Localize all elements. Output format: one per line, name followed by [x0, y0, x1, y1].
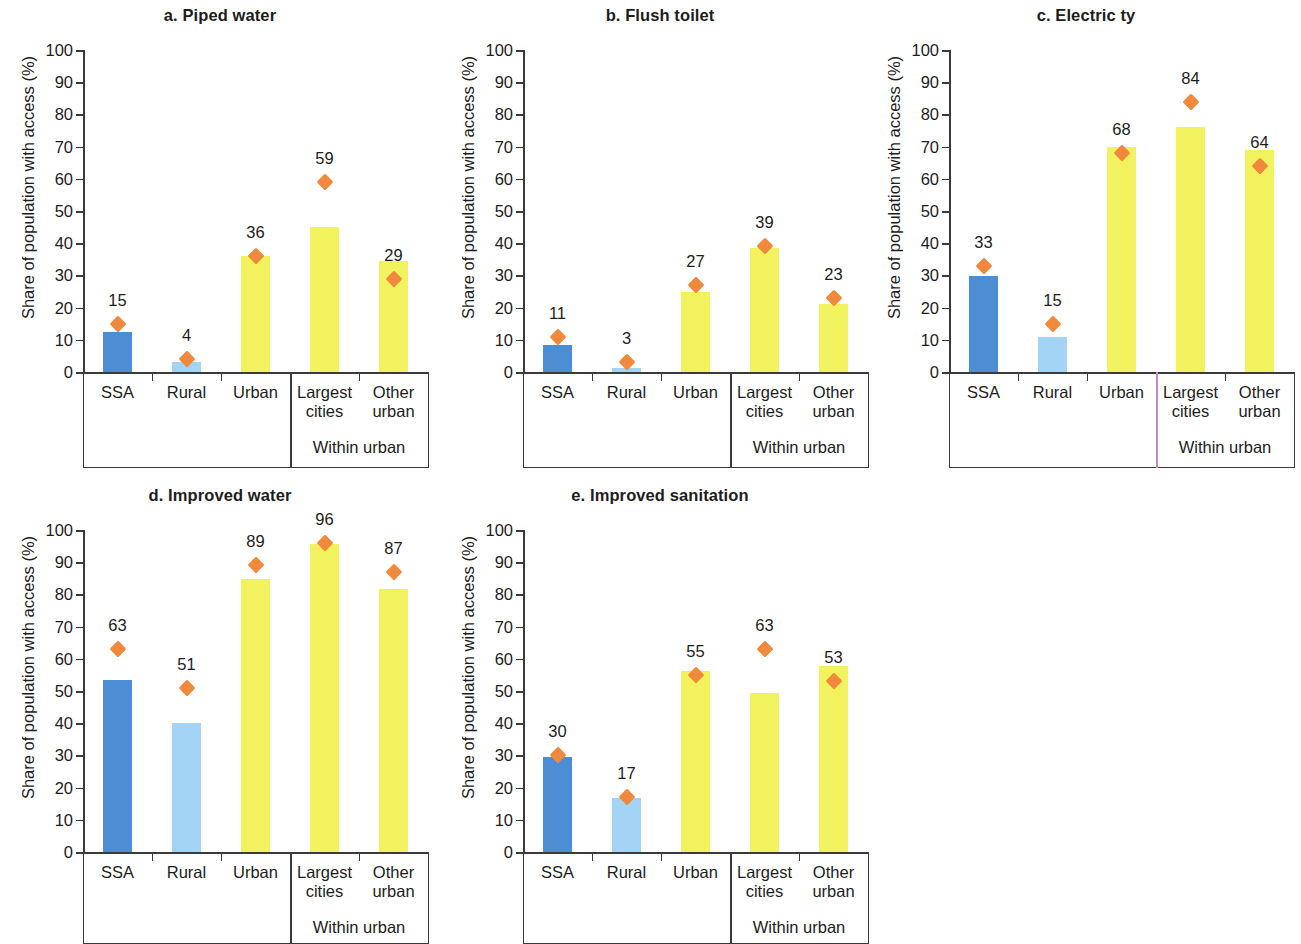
category-divider-tick	[359, 372, 360, 381]
y-tick-label: 90	[17, 554, 73, 571]
bar-c-0	[969, 276, 998, 372]
y-tick-mark	[76, 114, 83, 116]
within-urban-label: Within urban	[1156, 438, 1294, 457]
within-urban-label: Within urban	[730, 918, 868, 937]
y-tick-label: 40	[457, 715, 513, 732]
panel-title-c: c. Electric ty	[866, 6, 1301, 25]
y-tick-label: 0	[883, 364, 939, 381]
bar-e-0	[543, 757, 572, 852]
category-label-line: Other	[799, 863, 868, 882]
y-tick-label: 10	[17, 332, 73, 349]
y-tick-mark	[942, 275, 949, 277]
y-tick-label: 90	[457, 554, 513, 571]
y-tick-label: 10	[17, 812, 73, 829]
category-label-line: urban	[359, 882, 428, 901]
category-label-line: cities	[730, 882, 799, 901]
y-tick-mark	[516, 308, 523, 310]
data-label-b-4: 23	[804, 266, 864, 283]
y-tick-mark	[76, 50, 83, 52]
category-divider-tick	[1087, 372, 1088, 381]
marker-diamond-d-1	[178, 679, 195, 696]
bar-d-1	[172, 723, 201, 852]
y-tick-label: 20	[17, 780, 73, 797]
category-label-4: Otherurban	[799, 383, 868, 421]
category-label-0: SSA	[523, 383, 592, 402]
marker-diamond-a-3	[316, 174, 333, 191]
y-tick-mark	[76, 308, 83, 310]
category-divider-tick	[661, 852, 662, 861]
y-tick-label: 40	[17, 235, 73, 252]
y-tick-mark	[76, 755, 83, 757]
bar-c-3	[1176, 127, 1205, 372]
y-tick-mark	[516, 340, 523, 342]
y-tick-mark	[76, 788, 83, 790]
category-label-3: Largestcities	[290, 863, 359, 901]
y-tick-mark	[76, 147, 83, 149]
y-tick-label: 30	[17, 267, 73, 284]
y-axis-line	[949, 50, 951, 373]
y-tick-label: 100	[17, 42, 73, 59]
category-label-line: Urban	[1087, 383, 1156, 402]
data-label-e-4: 53	[804, 649, 864, 666]
marker-diamond-c-3	[1182, 93, 1199, 110]
y-tick-mark	[76, 275, 83, 277]
y-tick-label: 60	[457, 171, 513, 188]
category-label-3: Largestcities	[730, 863, 799, 901]
y-tick-label: 0	[17, 844, 73, 861]
category-label-line: Largest	[730, 863, 799, 882]
category-label-1: Rural	[592, 383, 661, 402]
y-tick-label: 70	[17, 139, 73, 156]
y-tick-mark	[516, 820, 523, 822]
bar-e-4	[819, 666, 848, 852]
category-divider-tick	[799, 852, 800, 861]
data-label-d-0: 63	[88, 617, 148, 634]
category-label-4: Otherurban	[359, 863, 428, 901]
category-label-1: Rural	[152, 383, 221, 402]
data-label-c-2: 68	[1092, 121, 1152, 138]
panel-title-b: b. Flush toilet	[440, 6, 880, 25]
category-label-4: Otherurban	[1225, 383, 1294, 421]
category-label-line: Other	[359, 383, 428, 402]
y-tick-mark	[76, 852, 83, 854]
chart-panel-a: a. Piped waterShare of population with a…	[0, 0, 440, 470]
bar-a-2	[241, 256, 270, 372]
marker-diamond-b-0	[549, 328, 566, 345]
y-tick-mark	[76, 562, 83, 564]
y-tick-mark	[942, 50, 949, 52]
panel-title-e: e. Improved sanitation	[440, 486, 880, 505]
y-tick-mark	[942, 147, 949, 149]
data-label-d-3: 96	[295, 511, 355, 528]
category-label-2: Urban	[221, 863, 290, 882]
y-tick-label: 90	[883, 74, 939, 91]
y-tick-label: 90	[17, 74, 73, 91]
category-label-4: Otherurban	[799, 863, 868, 901]
y-tick-mark	[76, 820, 83, 822]
chart-panel-b: b. Flush toiletShare of population with …	[440, 0, 880, 470]
data-label-e-2: 55	[666, 643, 726, 660]
y-tick-mark	[942, 211, 949, 213]
data-label-b-1: 3	[597, 330, 657, 347]
data-label-a-0: 15	[88, 292, 148, 309]
category-divider-tick	[799, 372, 800, 381]
y-tick-label: 60	[17, 651, 73, 668]
bar-e-1	[612, 798, 641, 852]
data-label-b-3: 39	[735, 214, 795, 231]
y-tick-label: 0	[17, 364, 73, 381]
y-tick-label: 40	[457, 235, 513, 252]
data-label-e-1: 17	[597, 765, 657, 782]
category-label-3: Largestcities	[730, 383, 799, 421]
bar-a-3	[310, 227, 339, 372]
y-tick-mark	[76, 179, 83, 181]
y-tick-label: 100	[883, 42, 939, 59]
category-label-line: Largest	[1156, 383, 1225, 402]
marker-diamond-d-0	[109, 641, 126, 658]
category-label-line: Other	[799, 383, 868, 402]
y-tick-mark	[516, 243, 523, 245]
y-tick-label: 80	[883, 106, 939, 123]
category-label-1: Rural	[152, 863, 221, 882]
category-divider-tick	[152, 372, 153, 381]
category-label-line: Urban	[661, 863, 730, 882]
category-label-line: SSA	[83, 863, 152, 882]
y-tick-label: 10	[457, 332, 513, 349]
